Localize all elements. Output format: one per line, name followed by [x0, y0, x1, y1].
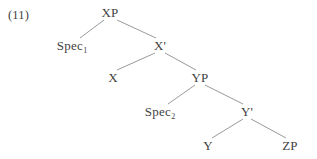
tree-node-spec1: Spec1 — [57, 39, 87, 52]
tree-node-spec2-subscript: 2 — [171, 111, 175, 120]
tree-node-ybar: Y' — [241, 105, 253, 118]
tree-node-yp: YP — [191, 71, 208, 84]
tree-node-zp: ZP — [282, 139, 298, 152]
tree-edge-ybar-y — [212, 119, 243, 138]
tree-edge-ybar-zp — [251, 119, 286, 138]
tree-edge-xp-spec1 — [80, 20, 104, 38]
tree-node-spec1-subscript: 1 — [83, 45, 87, 54]
tree-edge-xbar-x — [117, 53, 155, 70]
syntax-tree-figure: (11) XPSpec1X'XYPSpec2Y'YZP — [0, 0, 317, 159]
tree-branches — [0, 0, 317, 159]
tree-node-xbar: X' — [154, 39, 166, 52]
tree-node-xp: XP — [101, 6, 118, 19]
tree-edge-yp-ybar — [205, 85, 243, 104]
tree-node-spec2: Spec2 — [145, 105, 175, 118]
tree-edge-xp-xbar — [117, 20, 156, 38]
tree-edge-xbar-yp — [165, 53, 196, 70]
tree-node-x: X — [108, 71, 118, 84]
tree-node-y: Y — [203, 139, 213, 152]
tree-edge-yp-spec2 — [168, 85, 195, 104]
